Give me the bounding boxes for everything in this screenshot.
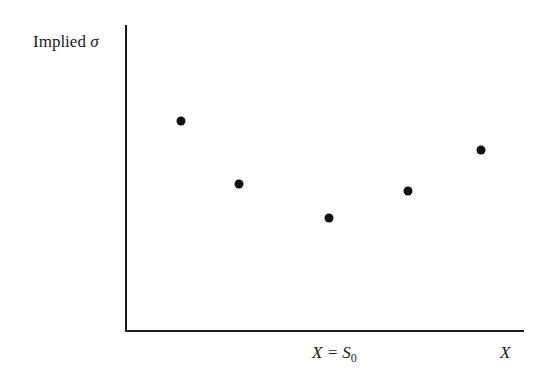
data-point bbox=[477, 146, 486, 155]
y-axis-label: Implied σ bbox=[33, 32, 99, 52]
data-points bbox=[177, 117, 486, 223]
atm-strike-label: X = S0 bbox=[312, 343, 357, 366]
x-axis-label: X bbox=[500, 343, 510, 363]
data-point bbox=[404, 187, 413, 196]
data-point bbox=[177, 117, 186, 126]
data-point bbox=[235, 180, 244, 189]
data-point bbox=[325, 214, 334, 223]
chart-plot-area bbox=[0, 0, 553, 381]
